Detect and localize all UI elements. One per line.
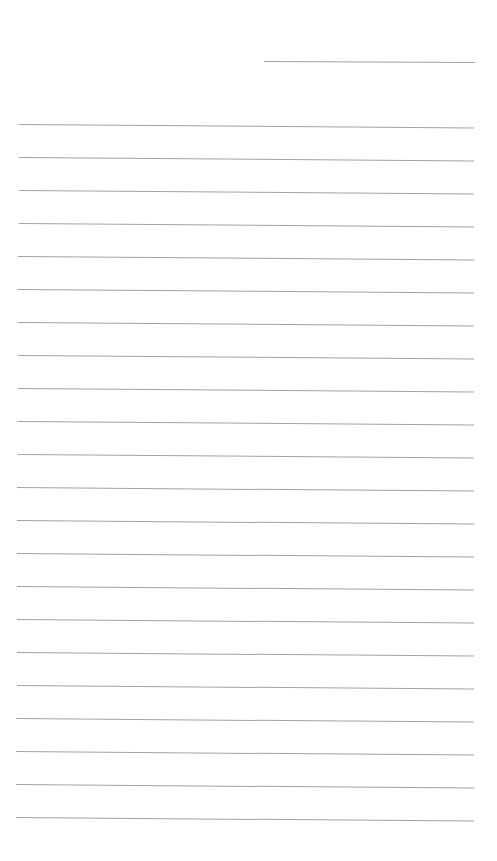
ruled-line — [19, 223, 474, 228]
ruled-line — [16, 751, 474, 756]
ruled-line — [18, 421, 474, 426]
ruled-line — [17, 553, 474, 558]
ruled-line — [16, 817, 474, 822]
ruled-line — [17, 619, 474, 624]
ruled-line — [18, 256, 474, 261]
lined-paper-page — [0, 0, 497, 861]
ruled-line — [19, 190, 474, 195]
ruled-line — [19, 124, 474, 129]
ruled-line — [18, 355, 474, 360]
ruled-line — [19, 157, 474, 162]
header-name-line — [264, 61, 475, 63]
ruled-line — [18, 289, 474, 294]
ruled-line — [17, 685, 474, 690]
ruled-line — [17, 586, 474, 591]
ruled-line — [16, 718, 474, 723]
ruled-line — [17, 652, 474, 657]
ruled-line — [18, 454, 474, 459]
ruled-line — [16, 784, 474, 789]
ruled-line — [18, 322, 474, 327]
ruled-line — [17, 520, 474, 525]
ruled-line — [17, 487, 474, 492]
ruled-line — [18, 388, 474, 393]
